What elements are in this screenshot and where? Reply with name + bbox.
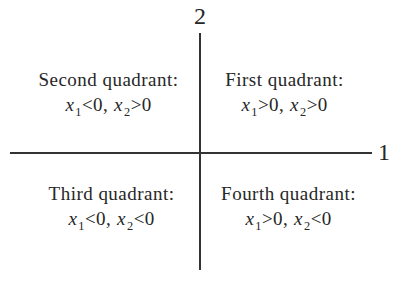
- variable-x: x: [117, 208, 127, 229]
- variable-x: x: [294, 208, 304, 229]
- first-quadrant-title: First quadrant:: [207, 68, 362, 92]
- relation-2: <0: [134, 208, 155, 229]
- subscript-1: 1: [75, 105, 82, 119]
- horizontal-axis-line: [10, 152, 372, 154]
- second-quadrant-conditions: x1<0,x2>0: [20, 93, 197, 117]
- third-quadrant-title: Third quadrant:: [23, 182, 200, 206]
- subscript-1: 1: [78, 219, 85, 233]
- subscript-2: 2: [127, 219, 134, 233]
- first-quadrant-conditions: x1>0,x2>0: [207, 93, 362, 117]
- subscript-1: 1: [251, 105, 258, 119]
- subscript-2: 2: [124, 105, 131, 119]
- subscript-1: 1: [255, 219, 262, 233]
- horizontal-axis-label: 1: [374, 139, 394, 165]
- vertical-axis-label: 2: [186, 3, 214, 29]
- third-quadrant-conditions: x1<0,x2<0: [23, 207, 200, 231]
- first-quadrant-block: First quadrant: x1>0,x2>0: [207, 68, 362, 117]
- second-quadrant-block: Second quadrant: x1<0,x2>0: [20, 68, 197, 117]
- variable-x: x: [68, 208, 78, 229]
- variable-x: x: [114, 94, 124, 115]
- relation-2: <0: [311, 208, 332, 229]
- second-quadrant-title: Second quadrant:: [20, 68, 197, 92]
- variable-x: x: [290, 94, 300, 115]
- quadrant-diagram: 2 1 Second quadrant: x1<0,x2>0 First qua…: [0, 0, 399, 288]
- variable-x: x: [241, 94, 251, 115]
- subscript-2: 2: [300, 105, 307, 119]
- fourth-quadrant-title: Fourth quadrant:: [211, 182, 366, 206]
- relation-1: <0,: [85, 208, 111, 229]
- relation-1: >0,: [258, 94, 284, 115]
- relation-1: >0,: [262, 208, 288, 229]
- fourth-quadrant-conditions: x1>0,x2<0: [211, 207, 366, 231]
- fourth-quadrant-block: Fourth quadrant: x1>0,x2<0: [211, 182, 366, 231]
- variable-x: x: [65, 94, 75, 115]
- subscript-2: 2: [304, 219, 311, 233]
- relation-1: <0,: [82, 94, 108, 115]
- relation-2: >0: [131, 94, 152, 115]
- variable-x: x: [245, 208, 255, 229]
- third-quadrant-block: Third quadrant: x1<0,x2<0: [23, 182, 200, 231]
- relation-2: >0: [307, 94, 328, 115]
